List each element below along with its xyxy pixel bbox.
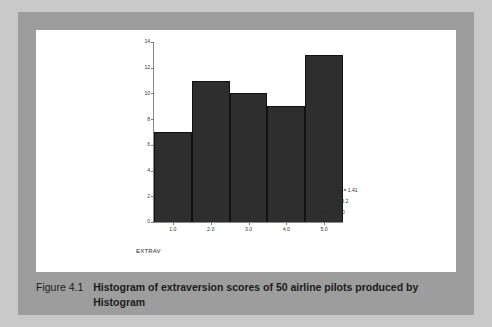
y-tick-label: 8 — [134, 117, 150, 122]
x-tick-mark — [249, 222, 250, 225]
histogram-bar — [267, 106, 305, 222]
x-tick-mark — [211, 222, 212, 225]
y-tick-label: 14 — [134, 39, 150, 44]
statistics-annotation: Std. Dev = 1.41 Mean = 3.2 N = 50.00 — [323, 185, 395, 218]
histogram-chart: 02468101214 1.02.03.04.05.0 Std. Dev = 1… — [36, 30, 456, 272]
stat-n: N = 50.00 — [323, 207, 395, 218]
y-tick-label: 6 — [134, 142, 150, 147]
y-tick-label: 2 — [134, 194, 150, 199]
y-tick-mark — [151, 222, 154, 223]
stat-mean: Mean = 3.2 — [323, 196, 395, 207]
histogram-bar — [230, 93, 268, 222]
x-tick-mark — [286, 222, 287, 225]
caption-text: Histogram of extraversion scores of 50 a… — [93, 280, 462, 310]
x-axis-title: EXTRAV — [136, 248, 161, 254]
stat-std-dev: Std. Dev = 1.41 — [323, 185, 395, 196]
x-tick-mark — [173, 222, 174, 225]
x-tick-label: 4.0 — [274, 227, 298, 232]
histogram-bar — [154, 132, 192, 222]
x-tick-label: 3.0 — [237, 227, 261, 232]
x-tick-label: 2.0 — [199, 227, 223, 232]
histogram-bar — [192, 81, 230, 222]
y-tick-label: 0 — [134, 219, 150, 224]
figure-frame: 02468101214 1.02.03.04.05.0 Std. Dev = 1… — [18, 12, 474, 315]
chart-panel: 02468101214 1.02.03.04.05.0 Std. Dev = 1… — [36, 30, 456, 272]
caption-label: Figure 4.1 — [36, 280, 83, 295]
x-tick-label: 5.0 — [312, 227, 336, 232]
figure-page: 02468101214 1.02.03.04.05.0 Std. Dev = 1… — [0, 0, 492, 327]
y-tick-label: 12 — [134, 65, 150, 70]
figure-caption: Figure 4.1 Histogram of extraversion sco… — [36, 280, 462, 310]
y-tick-label: 10 — [134, 91, 150, 96]
y-tick-label: 4 — [134, 168, 150, 173]
x-tick-label: 1.0 — [161, 227, 185, 232]
histogram-bars — [154, 42, 343, 222]
x-tick-mark — [324, 222, 325, 225]
